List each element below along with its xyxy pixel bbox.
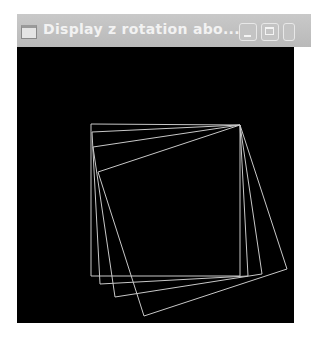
render-canvas	[17, 47, 294, 323]
square-3	[98, 125, 287, 316]
window-icon[interactable]	[21, 25, 37, 39]
close-button[interactable]	[283, 23, 295, 41]
window-title: Display z rotation abo...	[43, 21, 240, 37]
minimize-icon	[244, 35, 251, 37]
minimize-button[interactable]	[239, 23, 257, 41]
app-window: Display z rotation abo...	[17, 14, 297, 324]
title-bar[interactable]: Display z rotation abo...	[17, 14, 311, 47]
square-0	[91, 124, 240, 276]
maximize-icon	[265, 27, 274, 35]
square-1	[92, 125, 248, 284]
maximize-button[interactable]	[261, 23, 279, 41]
rotated-squares-drawing	[17, 47, 294, 323]
square-2	[93, 125, 262, 297]
